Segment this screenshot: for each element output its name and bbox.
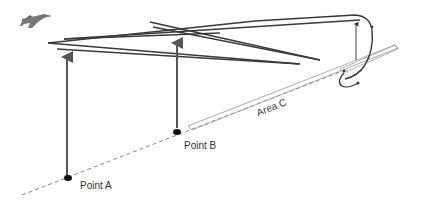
- point-a-label: Point A: [80, 180, 112, 191]
- fighter-jet-icon: [20, 14, 52, 28]
- point-b-marker: [173, 129, 181, 135]
- flight-paths: [48, 15, 372, 79]
- point-a-marker: [64, 175, 72, 181]
- point-b-label: Point B: [184, 140, 216, 151]
